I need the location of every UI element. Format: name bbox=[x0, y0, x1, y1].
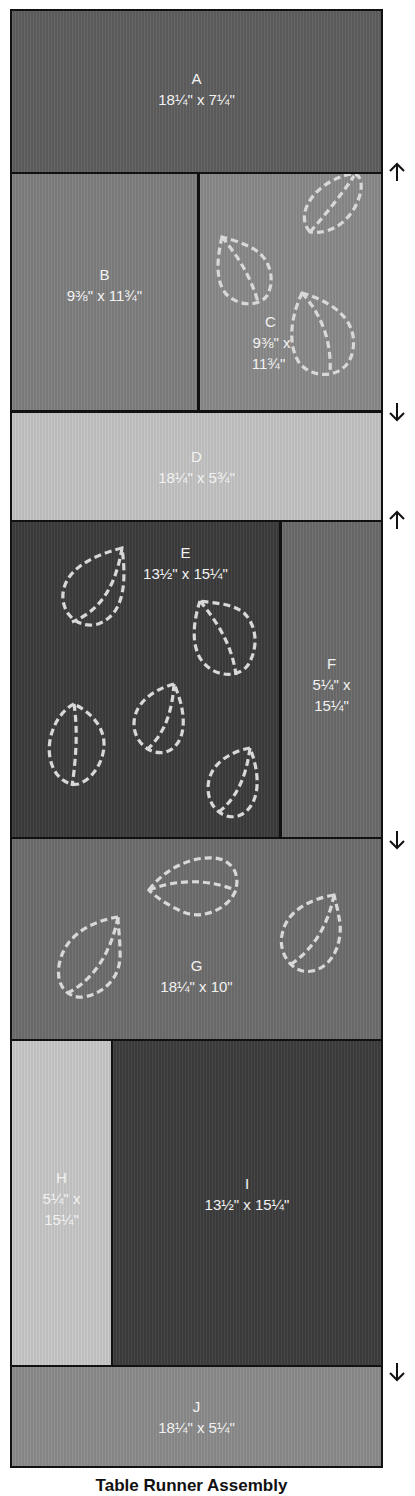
piece-g: G 18¼" x 10" bbox=[12, 839, 381, 1039]
piece-dimensions: 9⅜" x 11¾" bbox=[12, 285, 197, 306]
piece-c-label: C 9⅜" x 11¾" bbox=[200, 311, 381, 374]
leaf-applique-icon bbox=[130, 680, 192, 760]
leaf-applique-icon bbox=[145, 854, 245, 924]
diagram-caption: Table Runner Assembly bbox=[0, 1476, 383, 1496]
piece-dimensions: 18¼" x 10" bbox=[12, 976, 381, 997]
piece-a-label: A 18¼" x 7¼" bbox=[12, 68, 381, 110]
piece-b-label: B 9⅜" x 11¾" bbox=[12, 264, 197, 306]
piece-letter: I bbox=[113, 1173, 381, 1194]
piece-d-label: D 18¼" x 5¾" bbox=[12, 446, 381, 488]
piece-d: D 18¼" x 5¾" bbox=[12, 413, 381, 520]
table-runner-diagram: A 18¼" x 7¼" B 9⅜" x 11¾" bbox=[10, 9, 383, 1468]
piece-dimensions: 18¼" x 5¾" bbox=[12, 467, 381, 488]
piece-h: H 5¼" x 15¼" bbox=[12, 1041, 111, 1365]
piece-i: I 13½" x 15¼" bbox=[113, 1041, 381, 1365]
piece-dimensions-line1: 5¼" x bbox=[282, 674, 381, 695]
piece-i-label: I 13½" x 15¼" bbox=[113, 1173, 381, 1215]
piece-dimensions-line2: 11¾" bbox=[200, 353, 381, 374]
leaf-applique-icon bbox=[202, 744, 264, 824]
piece-a: A 18¼" x 7¼" bbox=[12, 11, 381, 172]
piece-letter: E bbox=[92, 542, 279, 563]
piece-h-label: H 5¼" x 15¼" bbox=[12, 1167, 111, 1230]
piece-letter: D bbox=[12, 446, 381, 467]
piece-b: B 9⅜" x 11¾" bbox=[12, 174, 197, 410]
piece-letter: C bbox=[200, 311, 381, 332]
piece-dimensions: 18¼" x 7¼" bbox=[12, 89, 381, 110]
piece-letter: A bbox=[12, 68, 381, 89]
piece-dimensions: 18¼" x 5¼" bbox=[12, 1417, 381, 1438]
piece-e: E 13½" x 15¼" bbox=[12, 522, 279, 837]
leaf-applique-icon bbox=[216, 234, 278, 309]
piece-letter: B bbox=[12, 264, 197, 285]
leaf-applique-icon bbox=[46, 700, 111, 790]
piece-f: F 5¼" x 15¼" bbox=[282, 522, 381, 837]
leaf-applique-icon bbox=[192, 597, 262, 682]
piece-f-label: F 5¼" x 15¼" bbox=[282, 653, 381, 716]
arrow-down-icon bbox=[388, 402, 406, 422]
leaf-applique-icon bbox=[296, 174, 376, 244]
piece-j-label: J 18¼" x 5¼" bbox=[12, 1396, 381, 1438]
leaf-applique-group bbox=[12, 839, 381, 1039]
piece-letter: G bbox=[12, 955, 381, 976]
piece-dimensions-line1: 5¼" x bbox=[12, 1188, 111, 1209]
piece-letter: H bbox=[12, 1167, 111, 1188]
arrow-down-icon bbox=[388, 1362, 406, 1382]
piece-j: J 18¼" x 5¼" bbox=[12, 1367, 381, 1466]
piece-dimensions: 13½" x 15¼" bbox=[92, 563, 279, 584]
arrow-up-icon bbox=[388, 510, 406, 530]
piece-dimensions-line2: 15¼" bbox=[12, 1209, 111, 1230]
piece-g-label: G 18¼" x 10" bbox=[12, 955, 381, 997]
piece-dimensions-line1: 9⅜" x bbox=[200, 332, 381, 353]
piece-dimensions-line2: 15¼" bbox=[282, 695, 381, 716]
arrow-up-icon bbox=[388, 162, 406, 182]
piece-letter: J bbox=[12, 1396, 381, 1417]
piece-dimensions: 13½" x 15¼" bbox=[113, 1194, 381, 1215]
leaf-applique-group bbox=[200, 174, 381, 410]
piece-c: C 9⅜" x 11¾" bbox=[200, 174, 381, 410]
piece-letter: F bbox=[282, 653, 381, 674]
arrow-down-icon bbox=[388, 830, 406, 850]
piece-e-label: E 13½" x 15¼" bbox=[92, 542, 279, 584]
